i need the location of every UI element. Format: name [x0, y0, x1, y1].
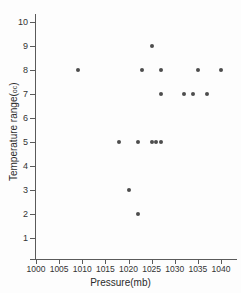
- scatter-point: [136, 212, 140, 216]
- y-axis-title-close: ): [8, 82, 19, 85]
- y-axis-title-main: Temperature range(: [8, 93, 19, 181]
- y-axis-tick-label: 2: [4, 210, 28, 219]
- scatter-point: [150, 140, 154, 144]
- y-axis-tick: [30, 190, 35, 191]
- x-axis-line: [30, 259, 237, 260]
- scatter-point: [154, 140, 158, 144]
- scatter-point: [205, 92, 209, 96]
- scatter-point: [76, 68, 80, 72]
- scatter-point: [159, 92, 163, 96]
- y-axis-tick-label: 10: [4, 18, 28, 27]
- scatter-point: [182, 92, 186, 96]
- scatter-point: [219, 68, 223, 72]
- figure-title-cutoff: [0, 0, 241, 7]
- y-axis-tick: [30, 118, 35, 119]
- y-axis-tick: [30, 94, 35, 95]
- scatter-point: [117, 140, 121, 144]
- scatter-point: [140, 68, 144, 72]
- y-axis-tick: [30, 46, 35, 47]
- y-axis-tick: [30, 70, 35, 71]
- y-axis-tick: [30, 142, 35, 143]
- scatter-point: [196, 68, 200, 72]
- y-axis-tick: [30, 238, 35, 239]
- x-axis-tick-label: 1040: [206, 265, 236, 274]
- y-axis-tick: [30, 166, 35, 167]
- scatter-point: [150, 44, 154, 48]
- scatter-point: [136, 140, 140, 144]
- y-axis-tick-label: 9: [4, 42, 28, 51]
- x-axis-title: Pressure(mb): [0, 277, 241, 288]
- scatter-point: [191, 92, 195, 96]
- y-axis-unit: oc: [11, 86, 18, 93]
- plot-data-area: [36, 14, 235, 258]
- y-axis-tick: [30, 214, 35, 215]
- y-axis-tick-label: 1: [4, 234, 28, 243]
- y-axis-title: Temperature range(oc): [8, 62, 20, 202]
- scatter-point: [159, 68, 163, 72]
- scatter-point: [159, 140, 163, 144]
- y-axis-tick: [30, 22, 35, 23]
- scatter-point: [127, 188, 131, 192]
- scatter-plot-figure: 10987654321 1000100510101015102010251030…: [0, 0, 241, 293]
